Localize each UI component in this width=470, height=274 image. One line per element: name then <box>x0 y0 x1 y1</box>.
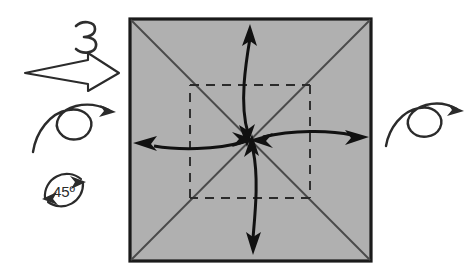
rotate-angle-label: 45º <box>53 183 76 200</box>
turn-over-loop-arrow-left <box>33 105 116 152</box>
turn-over-loop-arrow-right-path <box>386 104 457 146</box>
process-block-arrow <box>25 53 119 91</box>
step-number-text: 3 <box>86 44 87 45</box>
step-number-group: 3 <box>76 22 96 52</box>
turn-over-loop-arrow-left-path <box>33 105 109 152</box>
step-number-glyph <box>76 22 96 52</box>
turn-over-loop-arrow-right <box>386 104 464 146</box>
origami-step-diagram: 3 45º <box>0 0 470 274</box>
process-block-arrow-shape <box>25 53 119 91</box>
turn-over-loop-arrow-right-head <box>447 104 464 116</box>
rotate-45-degrees-symbol: 45º <box>42 174 86 206</box>
figure-canvas: 3 45º <box>0 0 470 274</box>
turn-over-loop-arrow-left-head <box>99 105 116 117</box>
